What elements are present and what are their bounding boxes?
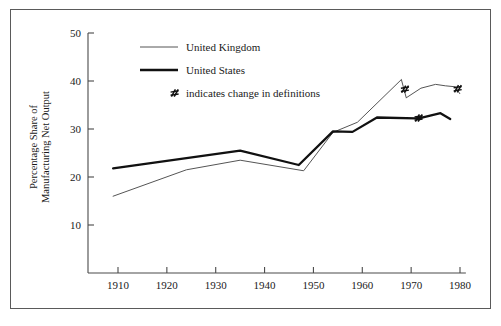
legend-swatch-break-symbol (171, 89, 179, 96)
y-tick-label: 40 (70, 75, 82, 87)
legend-item-united-states: United States (140, 64, 245, 76)
y-tick-label: 10 (70, 219, 82, 231)
legend-label: United States (186, 64, 245, 76)
legend-label: United Kingdom (186, 41, 261, 53)
legend-label: indicates change in definitions (186, 87, 320, 99)
legend: United KingdomUnited Statesindicates cha… (140, 41, 320, 99)
y-tick-label: 20 (70, 171, 82, 183)
series-line (113, 117, 416, 168)
x-tick-label: 1980 (449, 279, 472, 291)
x-tick-label: 1920 (156, 279, 179, 291)
x-tick-label: 1960 (351, 279, 374, 291)
x-tick-label: 1930 (205, 279, 228, 291)
break-stroke (401, 90, 409, 91)
chart-figure: 1020304050191019201930194019501960197019… (0, 0, 501, 326)
legend-item-united-kingdom: United Kingdom (140, 41, 261, 53)
definition-change-marker (401, 86, 409, 93)
legend-item-indicates-change-in-definiti: indicates change in definitions (171, 87, 321, 99)
x-tick-label: 1970 (400, 279, 423, 291)
series-united-states (113, 113, 450, 168)
x-tick-label: 1950 (302, 279, 325, 291)
y-axis-title-line-1: Percentage Share of (28, 105, 39, 189)
x-axis-ticks: 19101920193019401950196019701980 (107, 267, 472, 291)
x-tick-label: 1910 (107, 279, 130, 291)
x-tick-label: 1940 (254, 279, 277, 291)
series-line (406, 84, 455, 97)
break-stroke (454, 90, 462, 91)
series-line (421, 113, 450, 119)
definition-change-marker (454, 85, 462, 92)
y-tick-label: 30 (70, 123, 82, 135)
break-stroke (171, 94, 179, 95)
y-axis-title-line-2: Manufacturing Net Output (40, 91, 51, 203)
y-axis-title: Percentage Share ofManufacturing Net Out… (28, 91, 51, 203)
line-chart: 1020304050191019201930194019501960197019… (0, 0, 501, 326)
y-tick-label: 50 (70, 27, 82, 39)
y-axis-ticks: 1020304050 (70, 27, 94, 231)
